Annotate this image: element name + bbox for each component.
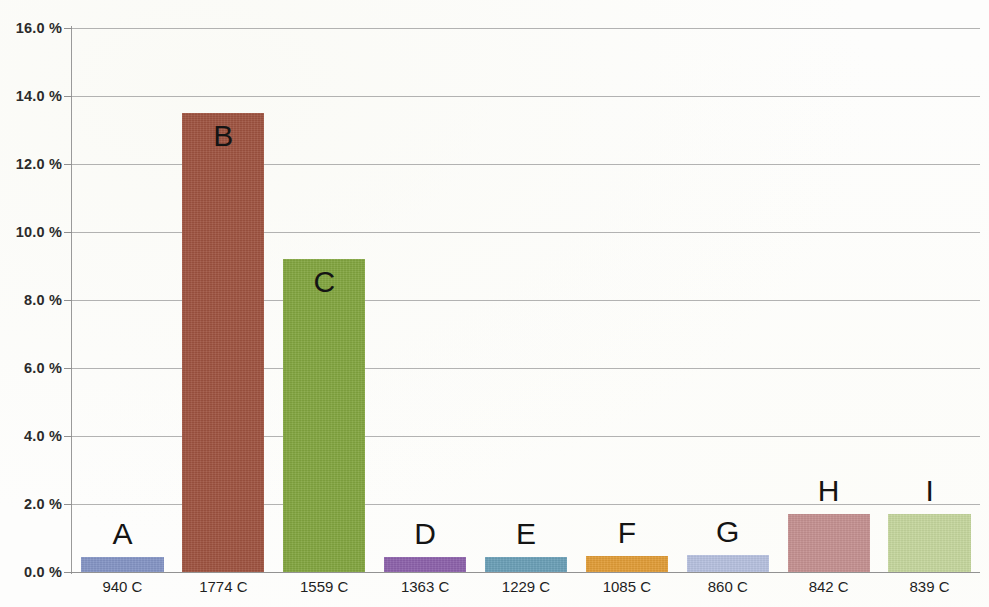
bar-letter-g: G (687, 517, 769, 547)
bar-letter-d: D (384, 519, 466, 549)
y-axis-tick-mark (64, 504, 72, 505)
bar-f (586, 556, 668, 572)
x-axis-tick-label: 1559 C (274, 578, 375, 595)
bar-chart: 16.0 %14.0 %12.0 %10.0 %8.0 %6.0 %4.0 %2… (0, 0, 989, 607)
y-axis-tick-label: 10.0 % (16, 224, 62, 240)
y-axis-tick-label: 0.0 % (24, 564, 62, 580)
y-axis-tick-label: 6.0 % (24, 360, 62, 376)
y-axis-tick-mark (64, 164, 72, 165)
x-axis-tick-label: 842 C (778, 578, 879, 595)
bar-letter-e: E (485, 519, 567, 549)
bars-layer: ABCDEFGHI (72, 28, 980, 572)
y-axis-tick-mark (64, 368, 72, 369)
y-axis-tick-mark (64, 572, 72, 573)
y-axis-tick-label: 2.0 % (24, 496, 62, 512)
bar-letter-f: F (586, 518, 668, 548)
bar-h (788, 514, 870, 572)
y-axis-tick-label: 4.0 % (24, 428, 62, 444)
bar-d (384, 557, 466, 572)
y-axis-tick-label: 14.0 % (16, 88, 62, 104)
x-axis-tick-label: 1774 C (173, 578, 274, 595)
x-axis-labels: 940 C1774 C1559 C1363 C1229 C1085 C860 C… (72, 578, 980, 607)
x-axis-tick-label: 860 C (677, 578, 778, 595)
x-axis-tick-label: 1363 C (375, 578, 476, 595)
x-axis-tick-label: 940 C (72, 578, 173, 595)
gridline (72, 572, 980, 573)
bar-c (283, 259, 365, 572)
y-axis-tick-mark (64, 28, 72, 29)
x-axis-tick-label: 839 C (879, 578, 980, 595)
bar-g (687, 555, 769, 572)
bar-b (182, 113, 264, 572)
y-axis-labels: 16.0 %14.0 %12.0 %10.0 %8.0 %6.0 %4.0 %2… (0, 0, 62, 607)
y-axis-tick-label: 12.0 % (16, 156, 62, 172)
y-axis-tick-mark (64, 300, 72, 301)
y-axis-tick-mark (64, 436, 72, 437)
x-axis-tick-label: 1085 C (576, 578, 677, 595)
bar-a (81, 557, 163, 572)
bar-letter-h: H (788, 476, 870, 506)
bar-letter-a: A (81, 519, 163, 549)
bar-letter-i: I (888, 476, 970, 506)
bar-e (485, 557, 567, 572)
y-axis-tick-mark (64, 96, 72, 97)
y-axis-tick-label: 16.0 % (16, 20, 62, 36)
y-axis-tick-mark (64, 232, 72, 233)
bar-i (888, 514, 970, 572)
x-axis-tick-label: 1229 C (476, 578, 577, 595)
y-axis-tick-label: 8.0 % (24, 292, 62, 308)
